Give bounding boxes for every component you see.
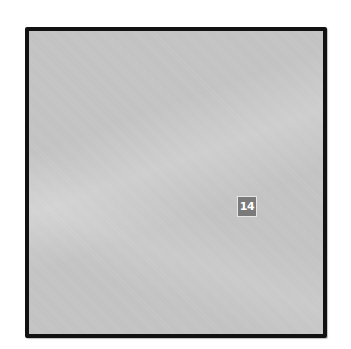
number-badge: 14 [237, 196, 257, 217]
framed-panel: 14 [25, 27, 327, 338]
